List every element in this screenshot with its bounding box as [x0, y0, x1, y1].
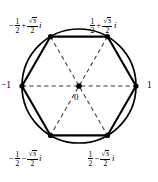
- vertex-neg1: [19, 83, 24, 88]
- label-br-real-fraction: 1 2: [87, 151, 94, 168]
- label-bl-real-fraction: 1 2: [14, 151, 21, 168]
- label-tl-imag-fraction: √3 2: [27, 17, 38, 35]
- label-tl-real-fraction: 1 2: [14, 18, 21, 35]
- label-tr-imag-denominator: 2: [105, 27, 111, 35]
- label-bl-imaginary-unit: i: [38, 154, 42, 163]
- complex-plane-figure: − 1 2 + √3 2 i 1 2 +: [0, 0, 158, 182]
- label-negative-one: −1: [1, 80, 11, 90]
- vertex-half-minus-sqrt3i: [105, 133, 110, 138]
- label-positive-one: 1: [147, 80, 152, 90]
- label-bl-imag-denominator: 2: [30, 160, 36, 168]
- sqrt-icon: √3: [103, 17, 111, 26]
- label-br-imaginary-unit: i: [111, 154, 115, 163]
- sqrt-icon: √3: [101, 150, 109, 159]
- vertex-1: [133, 83, 138, 88]
- label-tr-real-fraction: 1 2: [89, 18, 96, 35]
- origin-dot: [76, 83, 82, 89]
- label-origin: 0: [74, 92, 79, 102]
- label-tr-real-denominator: 2: [90, 26, 96, 34]
- label-tl-imag-denominator: 2: [30, 27, 36, 35]
- sqrt-icon: √3: [28, 17, 36, 26]
- vertex-neghalf-plus-sqrt3i: [48, 34, 53, 39]
- label-tl-imaginary-unit: i: [38, 21, 42, 30]
- label-tr-imag-fraction: √3 2: [102, 17, 113, 35]
- label-tr-imaginary-unit: i: [113, 21, 117, 30]
- label-half-minus-sqrt3-over-2-i: 1 2 − √3 2 i: [86, 150, 114, 168]
- label-br-real-denominator: 2: [88, 159, 94, 167]
- label-neghalf-plus-sqrt3-over-2-i: − 1 2 + √3 2 i: [8, 17, 42, 35]
- label-bl-imag-fraction: √3 2: [27, 150, 38, 168]
- label-br-imag-fraction: √3 2: [100, 150, 111, 168]
- label-tl-real-denominator: 2: [15, 26, 21, 34]
- sqrt-icon: √3: [28, 150, 36, 159]
- label-half-plus-sqrt3-over-2-i: 1 2 + √3 2 i: [88, 17, 116, 35]
- label-bl-real-denominator: 2: [15, 159, 21, 167]
- vertex-neghalf-minus-sqrt3i: [48, 133, 53, 138]
- label-br-imag-denominator: 2: [103, 160, 109, 168]
- label-neghalf-minus-sqrt3-over-2-i: − 1 2 − √3 2 i: [8, 150, 42, 168]
